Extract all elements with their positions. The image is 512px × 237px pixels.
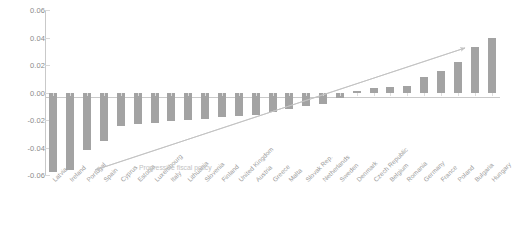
x-axis-tick-mark — [289, 93, 290, 96]
bar — [454, 62, 462, 92]
x-axis-tick-mark — [171, 93, 172, 96]
bar — [117, 93, 125, 126]
x-axis-tick-mark — [323, 93, 324, 96]
x-axis-tick-mark — [256, 93, 257, 96]
bar — [437, 71, 445, 93]
x-axis-tick-mark — [306, 93, 307, 96]
bar — [83, 93, 91, 151]
bar — [100, 93, 108, 141]
bar — [66, 93, 74, 170]
bar — [167, 93, 175, 122]
x-axis-tick-mark — [374, 93, 375, 96]
x-axis-tick-mark — [441, 93, 442, 96]
annotation-label: Progressive fiscal policy — [139, 164, 212, 171]
x-axis-tick-mark — [475, 93, 476, 96]
bar — [252, 93, 260, 115]
bar — [218, 93, 226, 118]
y-axis-tick-label: 0.00 — [0, 88, 51, 97]
x-axis-tick-mark — [155, 93, 156, 96]
x-axis-label-group: LatviaIrelandPortugalSpainCyprusEstoniaL… — [45, 176, 500, 237]
x-axis-tick-mark — [138, 93, 139, 96]
bar — [403, 86, 411, 93]
bar — [184, 93, 192, 121]
x-axis-tick-mark — [390, 93, 391, 96]
x-axis-tick-mark — [70, 93, 71, 96]
bar — [235, 93, 243, 116]
x-axis-tick-mark — [492, 93, 493, 96]
bar — [420, 77, 428, 92]
x-axis-tick-mark — [53, 93, 54, 96]
x-axis-tick-mark — [222, 93, 223, 96]
x-axis-tick-mark — [357, 93, 358, 96]
y-axis-tick-label: -0.06 — [0, 171, 51, 180]
y-axis-tick-label: -0.04 — [0, 143, 51, 152]
y-axis-tick-label: 0.02 — [0, 61, 51, 70]
x-axis-tick-mark — [121, 93, 122, 96]
x-axis-tick-mark — [407, 93, 408, 96]
y-axis-tick-label: 0.04 — [0, 33, 51, 42]
bar — [488, 38, 496, 93]
x-axis-tick-mark — [87, 93, 88, 96]
bar — [49, 93, 57, 173]
bar — [151, 93, 159, 123]
x-axis-tick-mark — [239, 93, 240, 96]
x-axis-tick-mark — [458, 93, 459, 96]
bar — [471, 47, 479, 92]
x-axis-tick-mark — [273, 93, 274, 96]
bar — [134, 93, 142, 125]
y-axis-tick-label: -0.02 — [0, 116, 51, 125]
x-axis-tick-mark — [340, 93, 341, 96]
bar — [201, 93, 209, 119]
x-axis-tick-mark — [424, 93, 425, 96]
x-axis-tick-mark — [205, 93, 206, 96]
y-axis-tick-label: 0.06 — [0, 6, 51, 15]
x-axis-tick-mark — [104, 93, 105, 96]
x-axis-tick-mark — [188, 93, 189, 96]
